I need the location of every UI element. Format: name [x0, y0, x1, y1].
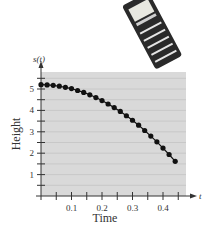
data-point: [136, 123, 141, 128]
data-point: [112, 105, 117, 110]
plot-background: [41, 72, 186, 196]
data-point: [142, 128, 147, 133]
x-axis-label: Time: [93, 211, 118, 225]
data-point: [167, 152, 172, 157]
data-point: [154, 139, 159, 144]
x-axis-arrow-icon: [190, 194, 197, 199]
x-var-label: t: [199, 191, 202, 201]
height-vs-time-chart: 0.10.20.30.412345 s(t) t Time Height: [0, 0, 209, 238]
y-var-label: s(t): [33, 54, 45, 64]
y-tick-label: 3: [30, 127, 35, 137]
data-point: [63, 85, 68, 90]
data-point: [87, 92, 92, 97]
data-point: [148, 133, 153, 138]
data-logger-icon: [122, 0, 182, 70]
x-tick-label: 0.4: [157, 203, 169, 213]
data-point: [38, 82, 43, 87]
data-point: [99, 98, 104, 103]
data-point: [69, 86, 74, 91]
data-point: [57, 84, 62, 89]
data-point: [75, 88, 80, 93]
data-point: [160, 145, 165, 150]
data-point: [130, 118, 135, 123]
data-point: [124, 113, 129, 118]
data-point: [118, 109, 123, 114]
y-tick-label: 4: [30, 105, 35, 115]
y-tick-label: 1: [30, 170, 35, 180]
data-point: [45, 82, 50, 87]
y-tick-label: 2: [30, 148, 35, 158]
y-tick-label: 5: [30, 84, 35, 94]
data-point: [81, 90, 86, 95]
plot-panel: [41, 72, 186, 196]
data-point: [93, 95, 98, 100]
data-point: [51, 83, 56, 88]
x-tick-label: 0.1: [66, 203, 77, 213]
data-point: [173, 159, 178, 164]
y-axis-label: Height: [9, 117, 23, 150]
data-point: [106, 101, 111, 106]
x-tick-label: 0.3: [127, 203, 139, 213]
